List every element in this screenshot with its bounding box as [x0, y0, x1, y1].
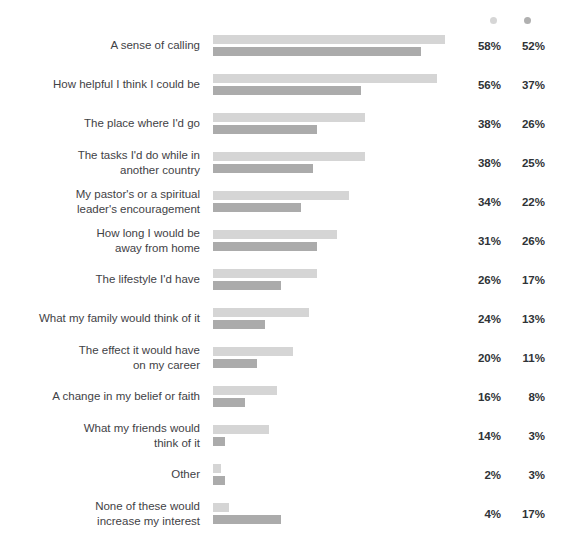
bar-series-a — [213, 347, 293, 356]
row-category-label: A sense of calling — [8, 26, 200, 65]
bar-series-a — [213, 74, 437, 83]
row-bars — [213, 455, 453, 494]
bar-chart: A sense of calling58%52%How helpful I th… — [0, 0, 561, 551]
bar-series-b — [213, 476, 225, 485]
value-series-a: 31% — [465, 235, 501, 247]
row-bars — [213, 104, 453, 143]
chart-row: What my friends would think of it14%3% — [0, 416, 561, 455]
row-values: 56%37% — [465, 65, 553, 104]
row-category-label: What my family would think of it — [8, 299, 200, 338]
value-series-a: 38% — [465, 118, 501, 130]
bar-series-b — [213, 125, 317, 134]
chart-row: How long I would be away from home31%26% — [0, 221, 561, 260]
value-series-b: 26% — [509, 118, 545, 130]
row-values: 38%25% — [465, 143, 553, 182]
bar-series-b — [213, 437, 225, 446]
row-category-label: A change in my belief or faith — [8, 377, 200, 416]
bar-series-a — [213, 113, 365, 122]
row-values: 38%26% — [465, 104, 553, 143]
row-category-label: The lifestyle I'd have — [8, 260, 200, 299]
value-series-a: 38% — [465, 157, 501, 169]
value-series-a: 4% — [465, 508, 501, 520]
bar-series-a — [213, 464, 221, 473]
bar-series-a — [213, 425, 269, 434]
value-series-a: 26% — [465, 274, 501, 286]
row-category-label: What my friends would think of it — [8, 416, 200, 455]
row-bars — [213, 143, 453, 182]
value-series-b: 8% — [509, 391, 545, 403]
row-values: 34%22% — [465, 182, 553, 221]
chart-row: How helpful I think I could be56%37% — [0, 65, 561, 104]
row-bars — [213, 416, 453, 455]
bar-series-a — [213, 386, 277, 395]
bar-series-a — [213, 191, 349, 200]
bar-series-b — [213, 86, 361, 95]
bar-series-b — [213, 164, 313, 173]
row-values: 20%11% — [465, 338, 553, 377]
chart-row: The place where I'd go38%26% — [0, 104, 561, 143]
row-category-label: None of these would increase my interest — [8, 494, 200, 533]
row-values: 24%13% — [465, 299, 553, 338]
value-series-b: 37% — [509, 79, 545, 91]
bar-series-b — [213, 359, 257, 368]
chart-row: A sense of calling58%52% — [0, 26, 561, 65]
value-series-a: 14% — [465, 430, 501, 442]
bar-series-b — [213, 398, 245, 407]
row-bars — [213, 260, 453, 299]
row-values: 4%17% — [465, 494, 553, 533]
row-bars — [213, 377, 453, 416]
row-bars — [213, 494, 453, 533]
chart-row: A change in my belief or faith16%8% — [0, 377, 561, 416]
value-series-b: 52% — [509, 40, 545, 52]
row-category-label: Other — [8, 455, 200, 494]
chart-rows: A sense of calling58%52%How helpful I th… — [0, 26, 561, 533]
bar-series-b — [213, 515, 281, 524]
value-series-b: 13% — [509, 313, 545, 325]
value-series-b: 3% — [509, 469, 545, 481]
legend-dot-series-b — [524, 17, 531, 24]
row-values: 14%3% — [465, 416, 553, 455]
value-series-b: 17% — [509, 274, 545, 286]
row-values: 2%3% — [465, 455, 553, 494]
chart-row: My pastor's or a spiritual leader's enco… — [0, 182, 561, 221]
row-category-label: The tasks I'd do while in another countr… — [8, 143, 200, 182]
bar-series-b — [213, 203, 301, 212]
bar-series-b — [213, 242, 317, 251]
value-series-a: 16% — [465, 391, 501, 403]
value-series-b: 26% — [509, 235, 545, 247]
row-values: 26%17% — [465, 260, 553, 299]
chart-row: What my family would think of it24%13% — [0, 299, 561, 338]
value-series-b: 17% — [509, 508, 545, 520]
bar-series-a — [213, 503, 229, 512]
chart-row: Other2%3% — [0, 455, 561, 494]
row-category-label: How helpful I think I could be — [8, 65, 200, 104]
value-series-b: 25% — [509, 157, 545, 169]
chart-title — [0, 0, 561, 2]
row-bars — [213, 299, 453, 338]
bar-series-b — [213, 320, 265, 329]
legend-dot-series-a — [490, 17, 497, 24]
value-series-b: 11% — [509, 352, 545, 364]
row-bars — [213, 221, 453, 260]
row-category-label: The effect it would have on my career — [8, 338, 200, 377]
chart-row: The effect it would have on my career20%… — [0, 338, 561, 377]
bar-series-b — [213, 47, 421, 56]
row-category-label: The place where I'd go — [8, 104, 200, 143]
bar-series-b — [213, 281, 281, 290]
value-series-a: 24% — [465, 313, 501, 325]
value-series-b: 22% — [509, 196, 545, 208]
value-series-b: 3% — [509, 430, 545, 442]
value-series-a: 2% — [465, 469, 501, 481]
row-values: 16%8% — [465, 377, 553, 416]
bar-series-a — [213, 230, 337, 239]
row-values: 58%52% — [465, 26, 553, 65]
row-category-label: My pastor's or a spiritual leader's enco… — [8, 182, 200, 221]
row-bars — [213, 338, 453, 377]
chart-row: None of these would increase my interest… — [0, 494, 561, 533]
value-series-a: 58% — [465, 40, 501, 52]
row-bars — [213, 26, 453, 65]
bar-series-a — [213, 269, 317, 278]
row-bars — [213, 65, 453, 104]
row-bars — [213, 182, 453, 221]
bar-series-a — [213, 308, 309, 317]
